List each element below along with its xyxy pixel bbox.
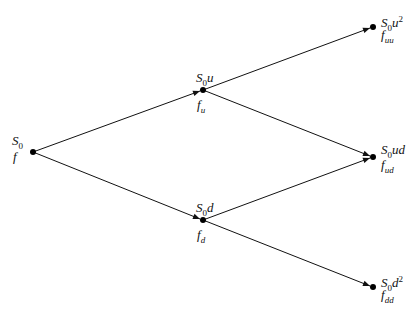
- edge-d-ud: [203, 158, 370, 220]
- node-u-price-label: S0u: [196, 71, 214, 90]
- edge-root-u: [33, 91, 200, 152]
- node-root-dot: [30, 149, 36, 155]
- node-dd-value-label: fdd: [381, 288, 394, 307]
- node-dd-dot: [370, 284, 376, 290]
- edge-d-dd: [203, 220, 370, 286]
- tree-edges: [0, 0, 418, 311]
- node-u-value-label: fu: [197, 98, 205, 117]
- node-root-value-label: f: [13, 150, 17, 163]
- node-ud-value-label: fud: [381, 158, 394, 177]
- node-d-value-label: fd: [197, 228, 205, 247]
- node-uu-dot: [370, 24, 376, 30]
- edge-u-ud: [203, 90, 370, 156]
- binomial-tree-diagram: S0 f S0u fu S0d fd S0u2 fuu S0ud fud S0d…: [0, 0, 418, 311]
- edge-root-d: [33, 152, 200, 219]
- edge-u-uu: [203, 28, 370, 90]
- node-ud-dot: [370, 154, 376, 160]
- node-uu-value-label: fuu: [381, 28, 394, 47]
- node-d-price-label: S0d: [196, 201, 214, 220]
